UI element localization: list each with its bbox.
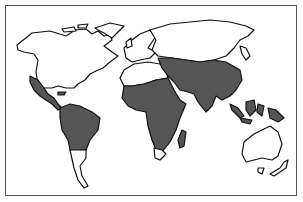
southeast-asia-islands	[230, 100, 284, 124]
madagascar	[178, 130, 186, 148]
tasmania	[258, 168, 264, 174]
new-zealand	[270, 160, 288, 176]
russia	[150, 20, 254, 62]
japan	[240, 46, 250, 60]
sub-saharan-africa	[122, 78, 186, 152]
british-isles	[126, 38, 132, 48]
south-america-south	[70, 150, 88, 188]
caribbean	[58, 92, 66, 95]
australia	[242, 126, 282, 162]
world-map	[0, 0, 303, 202]
